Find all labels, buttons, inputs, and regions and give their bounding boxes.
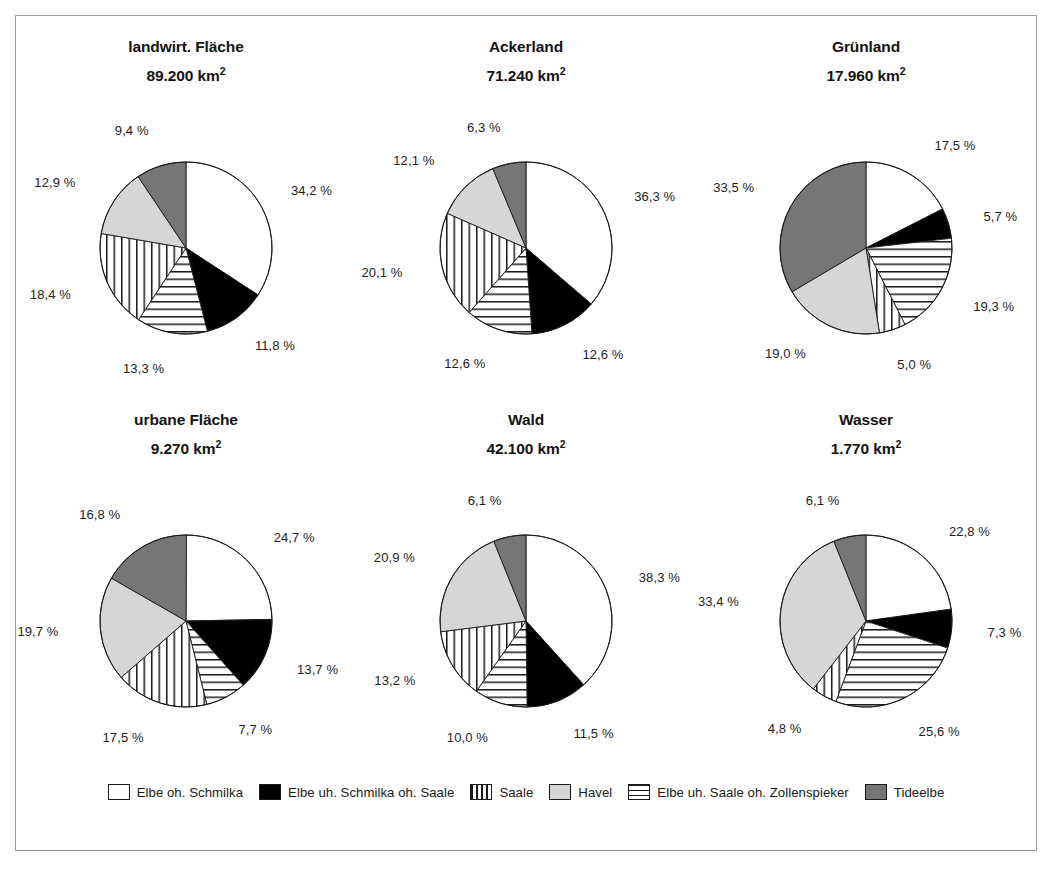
legend-label: Tideelbe (894, 785, 945, 800)
slice-label-elbe_uh_saale_oh_zoll: 13,3 % (123, 362, 164, 375)
slice-label-elbe_uh_schmilka_oh_saale: 7,3 % (988, 626, 1022, 639)
slice-label-elbe_oh_schmilka: 22,8 % (949, 525, 990, 538)
slice-label-havel: 19,7 % (17, 625, 58, 638)
legend-label: Saale (499, 785, 533, 800)
slice-label-elbe_uh_schmilka_oh_saale: 11,8 % (255, 339, 295, 352)
slice-label-elbe_oh_schmilka: 24,7 % (274, 531, 315, 544)
pie-slice-elbe_oh_schmilka (866, 535, 951, 621)
slice-label-saale: 20,1 % (361, 266, 402, 279)
slice-label-saale: 17,5 % (103, 731, 144, 744)
legend-item-tideelbe[interactable]: Tideelbe (865, 784, 945, 800)
legend-label: Elbe oh. Schmilka (137, 785, 243, 800)
legend-item-havel[interactable]: Havel (549, 784, 612, 800)
pie-panel-wald: Wald42.100 km2 38,3 %11,5 %10,0 %13,2 %2… (356, 389, 696, 761)
legend-swatch-tideelbe (865, 784, 887, 800)
legend-label: Elbe uh. Saale oh. Zollenspieker (657, 785, 848, 800)
legend-swatch-saale (470, 784, 492, 800)
pie-chart-ackerland: 36,3 %12,6 %12,6 %20,1 %12,1 %6,3 % (356, 16, 696, 388)
legend-item-elbe_uh_saale_oh_zoll[interactable]: Elbe uh. Saale oh. Zollenspieker (628, 784, 848, 800)
slice-label-elbe_oh_schmilka: 38,3 % (639, 571, 680, 584)
slice-label-elbe_uh_schmilka_oh_saale: 13,7 % (297, 663, 338, 676)
slice-label-elbe_uh_saale_oh_zoll: 19,3 % (973, 300, 1014, 313)
slice-label-tideelbe: 16,8 % (79, 508, 120, 521)
slice-label-elbe_uh_saale_oh_zoll: 7,7 % (239, 723, 273, 736)
slice-label-saale: 13,2 % (374, 674, 415, 687)
pie-chart-wasser: 22,8 %7,3 %25,6 %4,8 %33,4 %6,1 % (696, 389, 1036, 761)
slice-label-saale: 4,8 % (768, 722, 802, 735)
slice-label-tideelbe: 6,1 % (806, 494, 840, 507)
slice-label-havel: 12,9 % (34, 176, 75, 189)
slice-label-tideelbe: 9,4 % (115, 124, 149, 137)
legend-swatch-elbe_uh_schmilka_oh_saale (259, 784, 281, 800)
slice-label-elbe_oh_schmilka: 17,5 % (934, 139, 975, 152)
pie-slice-elbe_oh_schmilka (186, 535, 272, 621)
legend-item-saale[interactable]: Saale (470, 784, 533, 800)
legend-label: Elbe uh. Schmilka oh. Saale (288, 785, 454, 800)
pie-panel-ackerland: Ackerland71.240 km2 36,3 %12,6 %12,6 %20… (356, 16, 696, 388)
pie-panel-urbane-flaeche: urbane Fläche9.270 km2 24,7 %13,7 %7,7 %… (16, 389, 356, 761)
slice-label-elbe_uh_saale_oh_zoll: 25,6 % (919, 725, 960, 738)
legend-item-elbe_oh_schmilka[interactable]: Elbe oh. Schmilka (108, 784, 243, 800)
legend-swatch-havel (549, 784, 571, 800)
chart-legend: Elbe oh. SchmilkaElbe uh. Schmilka oh. S… (16, 772, 1036, 812)
slice-label-elbe_oh_schmilka: 36,3 % (634, 190, 675, 203)
legend-item-elbe_uh_schmilka_oh_saale[interactable]: Elbe uh. Schmilka oh. Saale (259, 784, 454, 800)
pie-chart-wald: 38,3 %11,5 %10,0 %13,2 %20,9 %6,1 % (356, 389, 696, 761)
pie-chart-landwirt-flaeche: 34,2 %11,8 %13,3 %18,4 %12,9 %9,4 % (16, 16, 356, 388)
slice-label-havel: 19,0 % (765, 347, 806, 360)
slice-label-elbe_oh_schmilka: 34,2 % (291, 184, 332, 197)
pie-chart-grid: landwirt. Fläche89.200 km2 34,2 %11,8 %1… (16, 16, 1036, 761)
slice-label-saale: 5,0 % (897, 358, 931, 371)
slice-label-tideelbe: 6,3 % (467, 121, 501, 134)
figure-root: landwirt. Fläche89.200 km2 34,2 %11,8 %1… (0, 0, 1053, 872)
pie-chart-gruenland: 17,5 %5,7 %19,3 %5,0 %19,0 %33,5 % (696, 16, 1036, 388)
slice-label-elbe_uh_saale_oh_zoll: 12,6 % (444, 357, 485, 370)
slice-label-elbe_uh_schmilka_oh_saale: 12,6 % (582, 348, 623, 361)
slice-label-havel: 33,4 % (698, 595, 739, 608)
legend-swatch-elbe_uh_saale_oh_zoll (628, 784, 650, 800)
slice-label-elbe_uh_schmilka_oh_saale: 5,7 % (983, 210, 1017, 223)
pie-panel-landwirt-flaeche: landwirt. Fläche89.200 km2 34,2 %11,8 %1… (16, 16, 356, 388)
pie-panel-wasser: Wasser1.770 km2 22,8 %7,3 %25,6 %4,8 %33… (696, 389, 1036, 761)
slice-label-elbe_uh_saale_oh_zoll: 10,0 % (447, 731, 488, 744)
legend-swatch-elbe_oh_schmilka (108, 784, 130, 800)
slice-label-elbe_uh_schmilka_oh_saale: 11,5 % (573, 727, 613, 740)
pie-panel-gruenland: Grünland17.960 km2 17,5 %5,7 %19,3 %5,0 … (696, 16, 1036, 388)
slice-label-tideelbe: 6,1 % (468, 494, 502, 507)
pie-chart-urbane-flaeche: 24,7 %13,7 %7,7 %17,5 %19,7 %16,8 % (16, 389, 356, 761)
slice-label-saale: 18,4 % (30, 288, 71, 301)
slice-label-tideelbe: 33,5 % (713, 181, 754, 194)
legend-label: Havel (578, 785, 612, 800)
slice-label-havel: 12,1 % (393, 154, 434, 167)
slice-label-havel: 20,9 % (374, 551, 415, 564)
